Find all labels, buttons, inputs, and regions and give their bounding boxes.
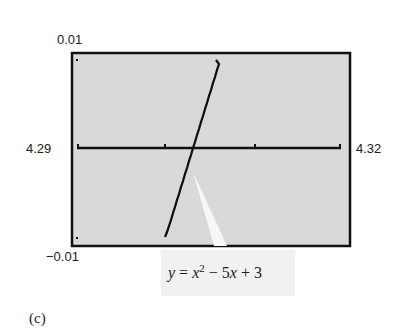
panel-label: (c) [29,310,46,327]
equation-label: y = x2 − 5x + 3 [168,262,262,282]
